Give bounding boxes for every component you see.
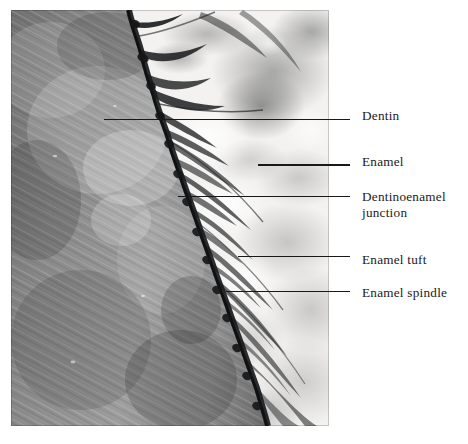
annotation-label-enamel: Enamel <box>362 154 404 170</box>
leader-line-dentin <box>104 119 350 120</box>
annotation-label-dentin: Dentin <box>362 108 399 124</box>
annotation-label-dentinoenamel-junction: Dentinoenamel junction <box>362 189 446 220</box>
leader-line-enamel-spindle <box>226 291 350 292</box>
leader-line-enamel <box>258 164 350 166</box>
leader-line-dentinoenamel-junction <box>178 196 350 197</box>
histology-figure: Dentin Enamel Dentinoenamel junction Ena… <box>0 0 468 444</box>
annotation-label-enamel-tuft: Enamel tuft <box>362 252 427 268</box>
photomicrograph <box>11 10 329 426</box>
annotation-label-enamel-spindle: Enamel spindle <box>362 285 447 301</box>
leader-line-enamel-tuft <box>238 256 350 257</box>
micrograph-canvas <box>11 10 329 426</box>
